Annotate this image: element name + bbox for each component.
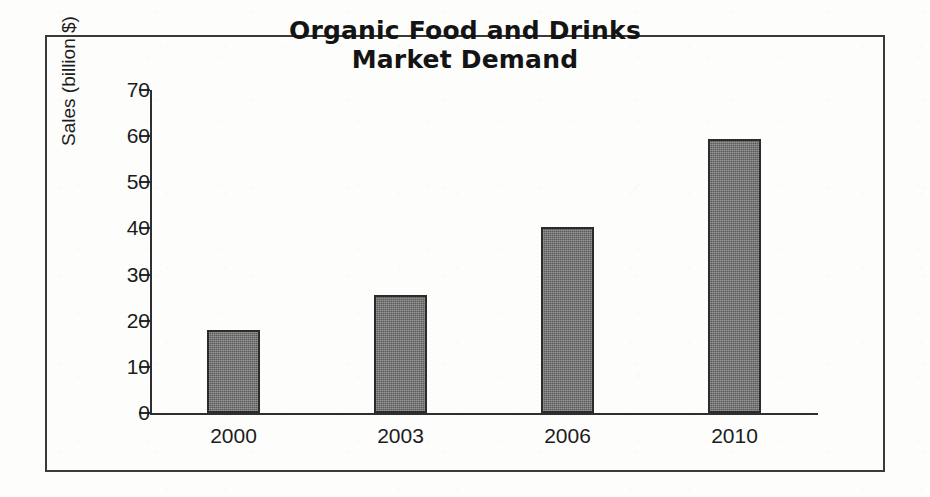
x-axis-line bbox=[150, 413, 818, 415]
y-axis-tick-label: 40 bbox=[127, 216, 150, 240]
chart-title-line-2: Market Demand bbox=[0, 45, 930, 74]
y-axis-line bbox=[150, 90, 152, 413]
plot-area: 706050403020100 2000200320062010 bbox=[150, 90, 818, 413]
y-axis-tick-label: 20 bbox=[127, 308, 150, 332]
chart-title: Organic Food and Drinks Market Demand bbox=[0, 16, 930, 74]
y-axis-tick-label: 0 bbox=[138, 401, 150, 425]
y-axis-tick-label: 10 bbox=[127, 354, 150, 378]
y-axis-tick-label: 70 bbox=[127, 78, 150, 102]
x-axis-tick-label-2010: 2010 bbox=[711, 424, 758, 448]
y-axis-tick-label: 60 bbox=[127, 124, 150, 148]
y-axis-tick-label: 50 bbox=[127, 170, 150, 194]
x-axis-tick-label-2000: 2000 bbox=[210, 424, 257, 448]
scanned-page: Organic Food and Drinks Market Demand Sa… bbox=[0, 0, 930, 497]
bar-2000 bbox=[207, 330, 260, 413]
x-axis-tick-label-2006: 2006 bbox=[544, 424, 591, 448]
x-axis-tick-label-2003: 2003 bbox=[377, 424, 424, 448]
y-axis-tick-label: 30 bbox=[127, 262, 150, 286]
bar-2006 bbox=[541, 227, 594, 413]
bar-2010 bbox=[708, 139, 761, 413]
chart-title-line-1: Organic Food and Drinks bbox=[0, 16, 930, 45]
y-axis-title: Sales (billion $) bbox=[58, 0, 80, 146]
bar-2003 bbox=[374, 295, 427, 413]
